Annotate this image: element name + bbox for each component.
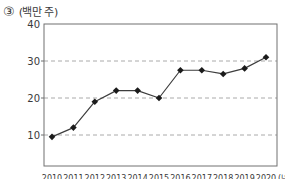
data-point-marker xyxy=(263,54,270,61)
y-axis-tick-label: 40 xyxy=(27,19,40,30)
x-axis-unit-label: (년) xyxy=(278,173,285,179)
x-axis-tick-label: 2020 xyxy=(256,174,276,179)
y-axis-tick-label: 20 xyxy=(27,93,40,104)
chart-figure: ③ (백만 주) 1020304020102011201220132014201… xyxy=(0,0,285,179)
data-point-marker xyxy=(241,65,248,72)
x-axis-tick-label: 2016 xyxy=(170,174,190,179)
data-point-marker xyxy=(199,67,206,74)
x-axis-tick-label: 2011 xyxy=(63,174,83,179)
x-axis-tick-label: 2013 xyxy=(106,174,126,179)
x-axis-tick-label: 2017 xyxy=(192,174,212,179)
data-point-marker xyxy=(220,71,227,78)
x-axis-tick-label: 2010 xyxy=(42,174,62,179)
data-point-marker xyxy=(113,87,120,94)
y-axis-tick-label: 10 xyxy=(27,130,40,141)
data-point-marker xyxy=(134,87,141,94)
x-axis-tick-label: 2018 xyxy=(213,174,233,179)
x-axis-tick-label: 2012 xyxy=(85,174,105,179)
plot-frame xyxy=(44,24,277,166)
data-point-marker xyxy=(49,134,56,141)
x-axis-tick-label: 2019 xyxy=(234,174,254,179)
x-axis-tick-label: 2014 xyxy=(127,174,147,179)
y-axis-tick-label: 30 xyxy=(27,56,40,67)
line-chart: 1020304020102011201220132014201520162017… xyxy=(0,0,285,179)
x-axis-tick-label: 2015 xyxy=(149,174,169,179)
